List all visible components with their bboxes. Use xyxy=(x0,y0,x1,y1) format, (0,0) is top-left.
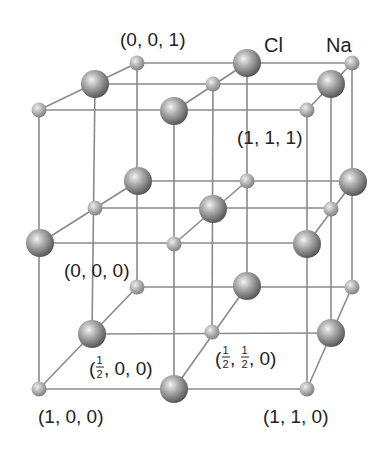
cl-atom xyxy=(160,375,188,403)
cl-atom xyxy=(81,70,109,98)
fraction-numerator: 1 xyxy=(242,344,248,356)
na-atom xyxy=(88,201,103,216)
coord-label-half-half-0: ( 1 2 , 1 2 , 0) xyxy=(215,344,276,370)
cl-atom xyxy=(317,319,345,347)
coord-label-000: (0, 0, 0) xyxy=(64,260,129,281)
na-atom xyxy=(32,382,47,397)
cl-atom xyxy=(233,272,261,300)
cl-atom xyxy=(160,97,188,125)
na-atom xyxy=(130,56,145,71)
na-species-label: Na xyxy=(326,34,352,56)
fraction-numerator: 1 xyxy=(223,344,229,356)
na-atom xyxy=(32,103,47,118)
na-atom xyxy=(206,77,221,92)
cl-atom xyxy=(317,70,345,98)
na-atom xyxy=(324,202,339,217)
svg-text:,: , xyxy=(230,348,235,369)
svg-text:, 0): , 0) xyxy=(249,348,276,369)
na-atom xyxy=(130,280,145,295)
na-atom xyxy=(240,174,255,189)
fraction-denominator: 2 xyxy=(223,358,229,370)
svg-text:, 0, 0): , 0, 0) xyxy=(104,358,153,379)
na-atom xyxy=(345,280,360,295)
svg-text:(: ( xyxy=(89,358,96,379)
na-atom xyxy=(345,56,360,71)
coord-label-111: (1, 1, 1) xyxy=(237,127,302,148)
coord-label-110: (1, 1, 0) xyxy=(263,406,328,427)
nacl-unit-cell-diagram: Cl Na (0, 0, 1) (1, 1, 1) (0, 0, 0) (1, … xyxy=(0,0,387,449)
cl-atom xyxy=(26,229,54,257)
fraction-denominator: 2 xyxy=(242,358,248,370)
cl-species-label: Cl xyxy=(264,34,283,56)
cl-atom xyxy=(233,49,261,77)
lattice-canvas: Cl Na (0, 0, 1) (1, 1, 1) (0, 0, 0) (1, … xyxy=(0,0,387,449)
fraction-numerator: 1 xyxy=(97,354,103,366)
cl-atom xyxy=(78,320,106,348)
svg-text:(: ( xyxy=(215,348,222,369)
cl-atom xyxy=(339,168,367,196)
coord-label-half-0-0: ( 1 2 , 0, 0) xyxy=(89,354,153,380)
na-atom xyxy=(167,237,182,252)
fraction-denominator: 2 xyxy=(97,368,103,380)
cl-atom xyxy=(124,167,152,195)
na-atom xyxy=(205,325,220,340)
cl-atom xyxy=(199,195,227,223)
coord-label-100: (1, 0, 0) xyxy=(38,406,103,427)
cl-atom xyxy=(293,230,321,258)
na-atom xyxy=(300,382,315,397)
na-atom xyxy=(300,103,315,118)
coord-label-001: (0, 0, 1) xyxy=(120,29,185,50)
